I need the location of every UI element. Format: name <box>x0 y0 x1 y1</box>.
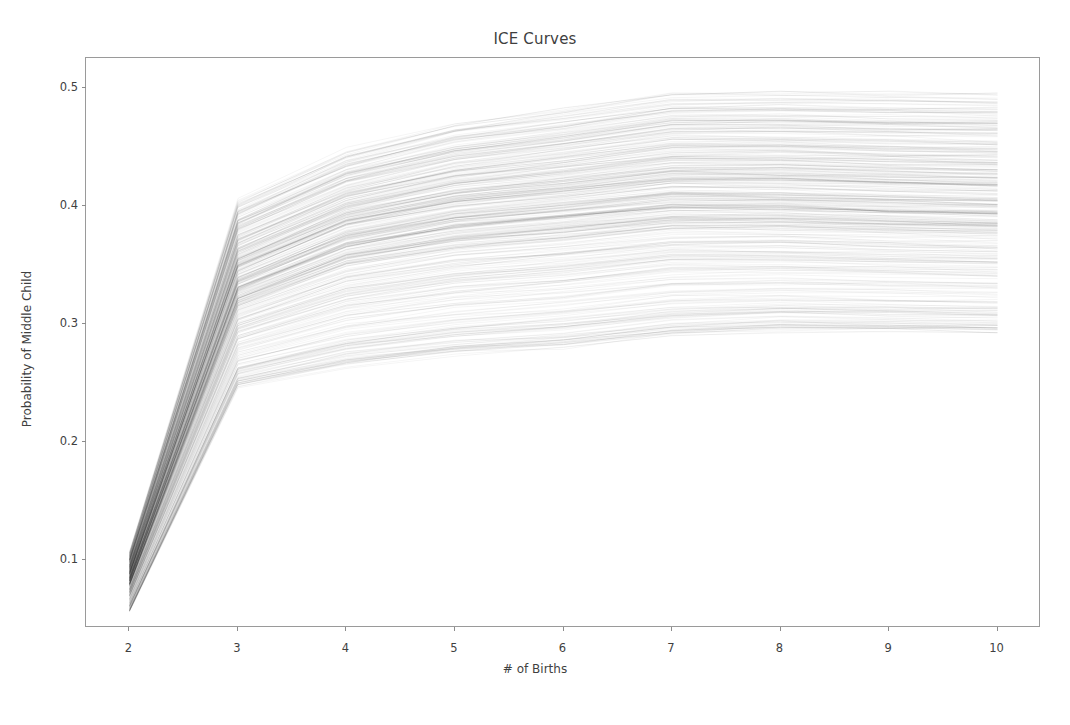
x-tick-mark <box>345 627 346 631</box>
ice-curve <box>129 328 997 611</box>
x-tick-label: 2 <box>125 641 132 655</box>
y-tick-label: 0.5 <box>60 80 78 94</box>
x-tick-mark <box>128 627 129 631</box>
x-tick-label: 3 <box>233 641 240 655</box>
x-tick-mark <box>671 627 672 631</box>
x-tick-mark <box>780 627 781 631</box>
x-tick-label: 7 <box>667 641 674 655</box>
y-tick-mark <box>82 441 86 442</box>
plot-area <box>85 57 1040 627</box>
y-tick-mark <box>82 205 86 206</box>
ice-curve <box>129 307 997 605</box>
ice-curve <box>129 322 997 609</box>
ice-curve <box>129 327 997 611</box>
x-tick-mark <box>563 627 564 631</box>
y-axis-tick-labels: 0.10.20.30.40.5 <box>36 0 78 725</box>
ice-curve <box>129 325 997 611</box>
x-tick-label: 9 <box>884 641 891 655</box>
ice-curve <box>129 328 997 611</box>
y-tick-label: 0.1 <box>60 552 78 566</box>
y-tick-mark <box>82 323 86 324</box>
ice-curve <box>129 307 997 605</box>
y-tick-label: 0.2 <box>60 434 78 448</box>
x-tick-mark <box>454 627 455 631</box>
x-tick-label: 10 <box>989 641 1004 655</box>
x-tick-label: 6 <box>559 641 566 655</box>
ice-curve <box>129 325 997 611</box>
ice-curve <box>129 316 997 609</box>
x-tick-mark <box>237 627 238 631</box>
x-axis-label: # of Births <box>0 662 1070 676</box>
ice-curve <box>129 307 997 605</box>
figure-canvas: ICE Curves 0.10.20.30.40.5 2345678910 # … <box>0 0 1070 725</box>
ice-curve <box>129 322 997 610</box>
y-tick-mark <box>82 559 86 560</box>
ice-curve <box>129 310 997 607</box>
ice-curve <box>129 327 997 611</box>
ice-curve <box>129 325 997 610</box>
x-tick-label: 4 <box>342 641 349 655</box>
ice-curve <box>129 252 997 593</box>
x-tick-mark <box>997 627 998 631</box>
ice-curve <box>129 300 997 604</box>
y-axis-label: Probability of Middle Child <box>20 219 34 479</box>
y-tick-label: 0.4 <box>60 198 78 212</box>
ice-curve <box>129 312 997 606</box>
ice-curve <box>129 305 997 606</box>
chart-title: ICE Curves <box>0 30 1070 48</box>
y-tick-label: 0.3 <box>60 316 78 330</box>
ice-curve <box>129 312 997 608</box>
ice-curve <box>129 327 997 611</box>
y-tick-mark <box>82 87 86 88</box>
ice-curves-plot <box>86 58 1041 628</box>
x-tick-label: 5 <box>450 641 457 655</box>
ice-curve <box>129 325 997 611</box>
x-tick-label: 8 <box>776 641 783 655</box>
x-tick-mark <box>888 627 889 631</box>
